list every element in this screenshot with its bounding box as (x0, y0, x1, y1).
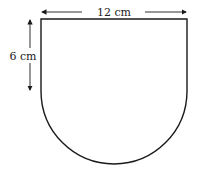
width-label: 12 cm (97, 6, 132, 19)
width-dimension: 12 cm (42, 6, 186, 19)
composite-shape-diagram: 12 cm 6 cm (0, 0, 198, 169)
shape-outline (41, 19, 187, 164)
height-label: 6 cm (9, 50, 37, 63)
height-dimension: 6 cm (8, 20, 38, 90)
